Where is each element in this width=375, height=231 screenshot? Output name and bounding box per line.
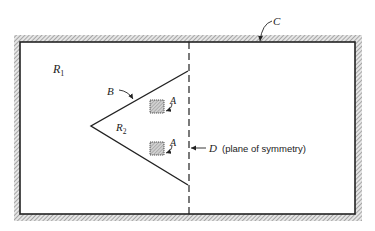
label-r1: R1 — [52, 62, 64, 78]
label-plane-of-symmetry: (plane of symmetry) — [222, 143, 306, 154]
label-a-bottom: A — [169, 137, 177, 148]
leader-arrow-b — [119, 90, 133, 99]
symmetry-diagram: R1 R2 B A A C D (plane of symmetry) — [0, 0, 375, 231]
enclosure-wall-c — [14, 35, 362, 221]
label-r2: R2 — [115, 121, 127, 136]
label-b: B — [107, 85, 114, 97]
label-d: D — [208, 142, 217, 154]
object-a-top — [150, 100, 164, 113]
object-a-bottom — [150, 142, 164, 155]
label-c: C — [273, 15, 281, 27]
label-a-top: A — [169, 95, 177, 106]
boundary-b-wedge — [91, 71, 188, 185]
